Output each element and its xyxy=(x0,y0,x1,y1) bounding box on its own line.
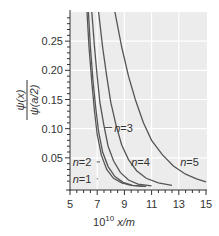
curve-label-n4: n=4 xyxy=(131,156,150,168)
curve-label-n1: n=1 xyxy=(73,173,92,185)
x-tick-label: 15 xyxy=(200,198,212,210)
x-label-base: 10 xyxy=(93,216,105,228)
x-axis-label: 1010 x/m xyxy=(93,214,135,228)
y-tick-label: 0.15 xyxy=(42,94,63,106)
curve-label-n2: n=2 xyxy=(73,156,92,168)
x-tick-label: 13 xyxy=(173,198,185,210)
x-tick-label: 9 xyxy=(121,198,127,210)
y-tick-label: 0.20 xyxy=(42,64,63,76)
y-tick-label: 0.05 xyxy=(42,152,63,164)
x-label-variable: x/m xyxy=(114,216,135,228)
curve-label-n5: n=5 xyxy=(180,156,199,168)
y-tick-label: 0.25 xyxy=(42,35,63,47)
y-tick-label: 0.10 xyxy=(42,123,63,135)
wavefunction-chart: n=1n=2n=3n=4n=5 0.050.100.150.200.255791… xyxy=(0,0,219,236)
curve-label-n3: n=3 xyxy=(114,122,133,134)
x-tick-label: 11 xyxy=(146,198,157,210)
y-axis-label: ψ(x) ψ(a/2) xyxy=(14,80,40,120)
y-label-numerator: ψ(x) xyxy=(14,89,26,110)
x-tick-label: 7 xyxy=(94,198,100,210)
x-tick-label: 5 xyxy=(67,198,73,210)
svg-text:1010 x/m: 1010 x/m xyxy=(93,214,135,228)
y-label-denominator: ψ(a/2) xyxy=(28,84,40,115)
